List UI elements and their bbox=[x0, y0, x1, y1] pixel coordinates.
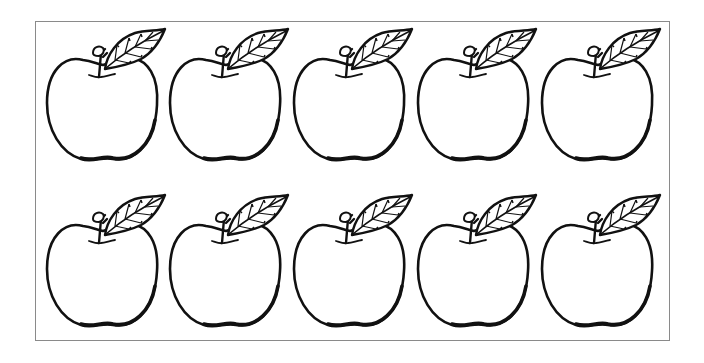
apple-r2-c2: apple bbox=[166, 191, 290, 331]
apple-icon bbox=[290, 25, 414, 165]
apple-icon bbox=[166, 25, 290, 165]
apple-r1-c4: apple bbox=[414, 25, 538, 165]
apple-r1-c3: apple bbox=[290, 25, 414, 165]
apple-r1-c5: apple bbox=[538, 25, 662, 165]
apple-r1-c2: apple bbox=[166, 25, 290, 165]
worksheet-title: Apples bbox=[36, 22, 37, 23]
apple-r2-c4: apple bbox=[414, 191, 538, 331]
apple-icon bbox=[414, 25, 538, 165]
apple-icon bbox=[290, 191, 414, 331]
apple-icon bbox=[166, 191, 290, 331]
apple-icon bbox=[43, 25, 167, 165]
apple-icon bbox=[538, 25, 662, 165]
apple-icon bbox=[538, 191, 662, 331]
apple-r2-c1: apple bbox=[43, 191, 167, 331]
apple-icon bbox=[43, 191, 167, 331]
apple-icon bbox=[414, 191, 538, 331]
apple-r2-c3: apple bbox=[290, 191, 414, 331]
apple-r2-c5: apple bbox=[538, 191, 662, 331]
apple-r1-c1: apple bbox=[43, 25, 167, 165]
